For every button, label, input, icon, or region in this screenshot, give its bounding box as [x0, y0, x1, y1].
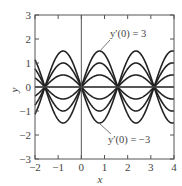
x-axis-label: x — [97, 173, 103, 185]
annotation-top: y′(0) = 3 — [110, 28, 146, 40]
y-axis-label: y — [8, 87, 20, 93]
annotation-leader-bottom — [99, 123, 111, 134]
x-tick-label: 2 — [125, 161, 131, 173]
x-tick-label: 1 — [102, 161, 108, 173]
annotation-leader-top — [99, 40, 110, 52]
y-tick-label: −3 — [19, 153, 31, 165]
y-tick-label: −2 — [19, 129, 31, 141]
y-tick-label: 2 — [26, 33, 32, 45]
x-tick-label: −1 — [52, 161, 64, 173]
x-tick-label: 0 — [79, 161, 85, 173]
chart: −2−101234−3−2−10123 x y y′(0) = 3 y′(0) … — [0, 0, 182, 186]
x-tick-label: 4 — [171, 161, 177, 173]
x-tick-label: 3 — [148, 161, 154, 173]
y-tick-label: 3 — [26, 9, 32, 21]
y-tick-label: −1 — [19, 105, 31, 117]
y-tick-label: 0 — [26, 81, 32, 93]
y-tick-label: 1 — [26, 57, 32, 69]
annotation-bottom: y′(0) = −3 — [108, 134, 150, 146]
